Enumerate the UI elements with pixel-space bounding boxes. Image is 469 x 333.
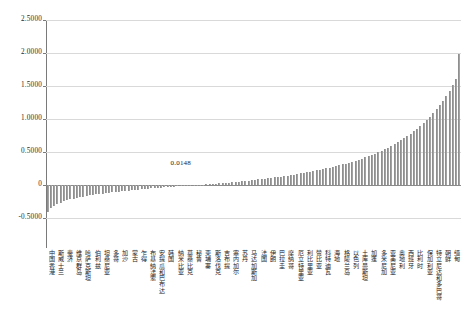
bar [280,177,282,185]
bar [261,179,263,185]
bar [134,185,136,190]
bar [377,152,379,184]
bar [231,182,233,184]
bar [50,185,52,209]
bars-container [46,20,461,234]
bar [131,185,133,191]
x-axis-label: 维京群岛 [75,250,82,275]
bar [121,185,123,192]
bar [394,144,396,184]
bar [154,185,156,189]
x-axis-label: 布基纳法索 [149,250,156,282]
bar [60,185,62,203]
bar [325,168,327,184]
bar [312,171,314,184]
bar [196,185,198,186]
y-tick-label: -0.5000 [18,214,42,221]
bar [53,185,55,206]
bar [170,185,172,187]
bar [69,185,71,200]
x-axis-label: 朝鲜 [444,250,451,263]
bar [124,185,126,191]
bar [277,177,279,185]
bar [63,185,65,202]
bar [173,185,175,187]
bar [449,91,451,185]
bar [56,185,58,204]
bar [89,185,91,196]
bar [439,105,441,184]
bar [189,185,191,186]
bar [303,173,305,185]
y-tick-label: 1.0000 [21,115,42,122]
plot-area: 0.0148 [46,20,461,234]
bar [141,185,143,190]
bar [108,185,110,193]
x-axis-label: 厄立特里亚 [297,250,304,282]
bar-chart: 2.50002.00001.50001.00000.50000-0.5000 0… [0,0,469,333]
bar [287,176,289,185]
x-axis-label: 缅甸 [453,250,460,263]
bar [160,185,162,188]
bar [73,185,75,199]
y-tick-label: 2.5000 [21,16,42,23]
bar [205,184,207,185]
bar [345,164,347,185]
bar [371,155,373,185]
bar [257,179,259,184]
bar [342,164,344,184]
bar [193,185,195,186]
bar [274,177,276,184]
y-tick-label: 1.5000 [21,82,42,89]
bar [118,185,120,192]
x-axis-label: 赞比亚 [315,250,322,269]
x-axis-label: 以色列 [352,250,359,269]
bar [290,175,292,185]
x-axis-label: 利比里亚 [306,250,313,275]
bar [426,120,428,184]
x-axis-label: 斯威士兰 [57,250,64,275]
x-axis-label: 苏丹 [241,250,248,263]
bar [355,161,357,185]
x-axis-label: 柬埔寨 [204,250,211,269]
bar [128,185,130,191]
x-axis-label: 伊朗 [269,250,276,263]
bar [115,185,117,192]
bar [212,184,214,185]
bar [264,179,266,185]
x-axis-label: 特立尼达和多巴哥 [435,250,442,300]
x-axis-label: 韩国 [167,250,174,263]
bar [144,185,146,189]
bar [209,184,211,185]
bar [79,185,81,198]
bar [309,172,311,185]
bar [322,169,324,184]
bar [316,170,318,184]
x-axis-label: 巴拉圭 [278,250,285,269]
bar [244,181,246,185]
x-axis-label: 安提瓜和巴布达 [158,250,165,294]
bar [293,175,295,185]
bar [199,185,201,186]
bar [202,185,204,186]
x-axis-label: 土库曼斯坦 [361,250,368,282]
bar [267,178,269,184]
x-axis-label: 纳米比亚 [177,250,184,275]
x-axis-label: 中国香港 [48,250,55,275]
bar [147,185,149,189]
bar [319,170,321,185]
bar [423,123,425,184]
bar [225,183,227,185]
bar [111,185,113,193]
bar [167,185,169,188]
bar [251,180,253,184]
value-annotation: 0.0148 [171,159,191,167]
bar [92,185,94,195]
bar [410,134,412,185]
x-axis-label: 比利时 [416,250,423,269]
bar [183,185,185,186]
x-axis-label: 法国 [260,250,267,263]
bar [176,185,178,187]
bar [186,185,188,186]
bar [348,163,350,185]
